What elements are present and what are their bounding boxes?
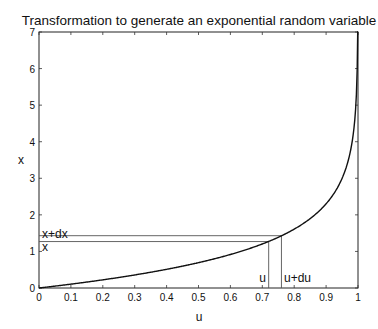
y-tick-label: 1: [29, 246, 35, 257]
x-tick-label: 0.3: [128, 292, 142, 303]
y-tick-label: 3: [29, 173, 35, 184]
annotation-label-u-plus-du: u+du: [284, 271, 311, 285]
annotation-label-x: x: [42, 240, 48, 254]
chart: Transformation to generate an exponentia…: [0, 0, 378, 329]
x-tick-label: 1: [355, 292, 361, 303]
x-tick-label: 0.5: [192, 292, 206, 303]
x-tick-label: 0.4: [160, 292, 174, 303]
x-tick-label: 0.7: [255, 292, 269, 303]
x-axis-label: u: [196, 310, 203, 324]
chart-title: Transformation to generate an exponentia…: [22, 13, 376, 28]
y-tick-label: 6: [29, 64, 35, 75]
x-tick-label: 0: [36, 292, 42, 303]
y-tick-label: 2: [29, 210, 35, 221]
y-tick-label: 5: [29, 100, 35, 111]
x-tick-label: 0.9: [319, 292, 333, 303]
annotation-lines: [39, 236, 281, 288]
annotation-label-u: u: [259, 271, 266, 285]
y-axis-ticks: 01234567: [29, 27, 358, 294]
axes-box: [39, 32, 358, 288]
y-axis-label: x: [18, 153, 24, 167]
y-tick-label: 7: [29, 27, 35, 38]
annotation-label-x-plus-dx: x+dx: [42, 227, 68, 241]
y-tick-label: 0: [29, 283, 35, 294]
x-tick-label: 0.6: [223, 292, 237, 303]
exponential-transform-curve: [39, 32, 358, 288]
plot-area: 00.10.20.30.40.50.60.70.80.91 01234567: [29, 27, 361, 303]
x-tick-label: 0.8: [287, 292, 301, 303]
x-tick-label: 0.2: [96, 292, 110, 303]
y-tick-label: 4: [29, 137, 35, 148]
x-tick-label: 0.1: [64, 292, 78, 303]
